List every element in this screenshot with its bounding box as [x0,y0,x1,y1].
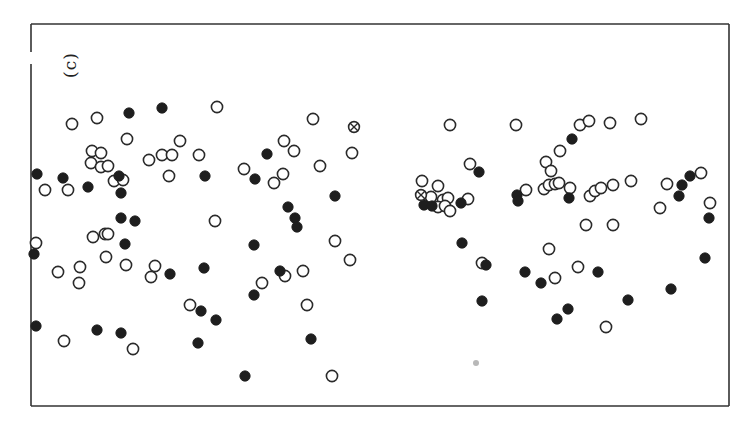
filled-circle-marker [520,267,530,277]
open-circle-marker [625,175,636,186]
filled-circle-marker [193,338,203,348]
filled-circle-marker [536,278,546,288]
filled-circle-marker [275,266,285,276]
open-circle-marker [635,113,646,124]
filled-circle-marker [674,191,684,201]
filled-circle-marker [249,240,259,250]
open-circle-marker [654,202,665,213]
open-circle-marker [444,119,455,130]
open-circle-marker [307,113,318,124]
filled-circle-marker [666,284,676,294]
open-circle-marker [102,160,113,171]
filled-circle-marker [477,296,487,306]
filled-circle-marker [700,253,710,263]
open-circle-marker [301,299,312,310]
filled-circle-marker [593,267,603,277]
filled-circle-marker [165,269,175,279]
open-circle-marker [163,170,174,181]
open-circle-marker [66,118,77,129]
open-circle-marker [595,182,606,193]
open-circle-marker [545,165,556,176]
open-circle-marker [102,228,113,239]
open-circle-marker [297,265,308,276]
open-circle-marker [209,215,220,226]
open-circle-marker [288,145,299,156]
open-circle-marker [277,168,288,179]
open-circle-marker [346,147,357,158]
filled-circle-marker [623,295,633,305]
filled-circle-marker [58,173,68,183]
open-circle-marker [583,115,594,126]
open-circle-marker [572,261,583,272]
open-circle-marker [174,135,185,146]
open-circle-marker [464,158,475,169]
open-circle-marker [314,160,325,171]
series-filled [29,103,714,381]
series-crossed [349,122,427,201]
filled-circle-marker [427,201,437,211]
open-circle-marker [149,260,160,271]
filled-circle-marker [211,315,221,325]
open-circle-marker [30,237,41,248]
open-circle-marker [329,235,340,246]
open-circle-marker [166,149,177,160]
open-circle-marker [344,254,355,265]
filled-circle-marker [292,222,302,232]
open-circle-marker [127,343,138,354]
crossed-circle-marker [416,190,427,201]
filled-circle-marker [116,213,126,223]
filled-circle-marker [92,325,102,335]
open-circle-marker [564,182,575,193]
open-circle-marker [121,133,132,144]
open-circle-marker [600,321,611,332]
open-circle-marker [704,197,715,208]
open-circle-marker [91,112,102,123]
open-circle-marker [549,272,560,283]
open-circle-marker [193,149,204,160]
open-circle-marker [87,231,98,242]
filled-circle-marker [196,306,206,316]
filled-circle-marker [457,238,467,248]
filled-circle-marker [704,213,714,223]
filled-circle-marker [199,263,209,273]
filled-circle-marker [116,188,126,198]
open-circle-marker [58,335,69,346]
filled-circle-marker [685,171,695,181]
open-circle-marker [604,117,615,128]
filled-circle-marker [249,290,259,300]
series-faint [473,360,479,366]
open-circle-marker [580,219,591,230]
crossed-circle-marker [349,122,360,133]
open-circle-marker [95,147,106,158]
filled-circle-marker [240,371,250,381]
filled-circle-marker [677,180,687,190]
open-circle-marker [238,163,249,174]
filled-circle-marker [120,239,130,249]
filled-circle-marker [474,167,484,177]
open-circle-marker [553,177,564,188]
filled-circle-marker [564,193,574,203]
filled-circle-marker [200,171,210,181]
data-points [29,101,716,381]
filled-circle-marker [290,213,300,223]
open-circle-marker [444,205,455,216]
filled-circle-marker [513,196,523,206]
open-circle-marker [278,135,289,146]
filled-circle-marker [552,314,562,324]
open-circle-marker [695,167,706,178]
open-circle-marker [607,179,618,190]
open-circle-marker [52,266,63,277]
filled-circle-marker [563,304,573,314]
filled-circle-marker [250,174,260,184]
filled-circle-marker [114,171,124,181]
faint-dot-marker [473,360,479,366]
open-circle-marker [74,261,85,272]
filled-circle-marker [130,216,140,226]
filled-circle-marker [124,108,134,118]
filled-circle-marker [83,182,93,192]
filled-circle-marker [32,169,42,179]
open-circle-marker [326,370,337,381]
filled-circle-marker [31,321,41,331]
open-circle-marker [145,271,156,282]
open-circle-marker [73,277,84,288]
